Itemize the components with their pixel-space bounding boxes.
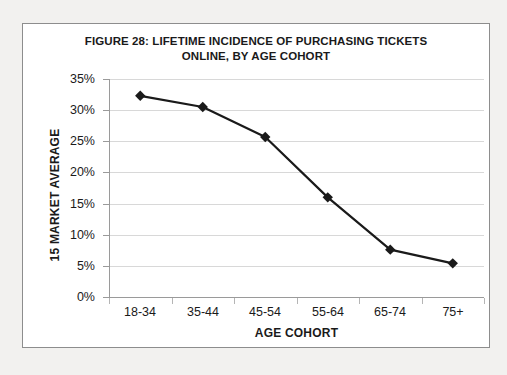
data-point-marker[interactable] xyxy=(448,258,458,268)
series-polyline xyxy=(140,96,453,264)
x-axis-tick xyxy=(172,298,173,304)
y-axis-tick-label: 10% xyxy=(35,228,95,242)
data-point-marker[interactable] xyxy=(135,91,145,101)
y-axis-tick-label: 35% xyxy=(35,72,95,86)
y-axis-title: 15 MARKET AVERAGE xyxy=(48,95,62,295)
plot-area xyxy=(109,79,484,297)
y-axis-tick-label: 5% xyxy=(35,259,95,273)
y-axis-tick-label: 30% xyxy=(35,103,95,117)
x-axis-tick xyxy=(234,298,235,304)
y-axis-tick-label: 20% xyxy=(35,165,95,179)
x-axis-tick xyxy=(297,298,298,304)
figure-frame: FIGURE 28: LIFETIME INCIDENCE OF PURCHAS… xyxy=(22,23,490,348)
x-axis-tick-label: 75+ xyxy=(413,305,493,319)
y-axis-tick-label: 0% xyxy=(35,290,95,304)
x-axis-line xyxy=(109,297,484,298)
x-axis-tick xyxy=(484,298,485,304)
x-axis-tick xyxy=(422,298,423,304)
x-axis-title: AGE COHORT xyxy=(109,326,484,340)
plot-wrap: 0%5%10%15%20%25%30%35% 18-3435-4445-5455… xyxy=(23,24,491,349)
data-series-line xyxy=(109,79,484,297)
x-axis-tick xyxy=(109,298,110,304)
y-axis-tick-label: 25% xyxy=(35,134,95,148)
x-axis-tick xyxy=(359,298,360,304)
data-point-marker[interactable] xyxy=(198,102,208,112)
y-axis-tick-label: 15% xyxy=(35,197,95,211)
